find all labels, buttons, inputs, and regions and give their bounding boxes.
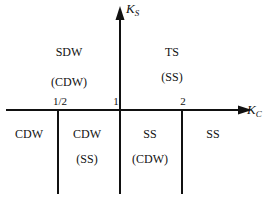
region-lower-1-main: CDW <box>15 128 43 140</box>
region-lower-4-main: SS <box>206 128 219 140</box>
region-upper-left-main: SDW <box>56 46 83 58</box>
kc-axis-letter: K <box>247 102 256 117</box>
tick-label-two: 2 <box>180 96 186 107</box>
ks-axis-arrowhead-icon <box>116 6 125 20</box>
region-upper-left-sub: (CDW) <box>51 76 87 88</box>
region-lower-3-main: SS <box>143 128 156 140</box>
region-lower-2-sub: (SS) <box>76 153 97 165</box>
region-upper-right-sub: (SS) <box>161 71 182 83</box>
phase-diagram-lines <box>0 0 266 200</box>
region-lower-3-sub: (CDW) <box>132 153 168 165</box>
ks-axis-subscript: S <box>135 8 140 18</box>
ks-axis-letter: K <box>126 1 135 16</box>
ks-axis-label: KS <box>126 2 139 20</box>
tick-label-one: 1 <box>113 96 119 107</box>
kc-axis-subscript: C <box>256 109 262 119</box>
kc-axis-label: KC <box>247 103 262 121</box>
region-upper-right-main: TS <box>165 46 179 58</box>
region-lower-2-main: CDW <box>73 128 101 140</box>
tick-label-half: 1/2 <box>53 96 67 107</box>
